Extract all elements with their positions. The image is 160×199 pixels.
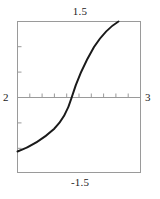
plot-canvas	[0, 0, 160, 199]
y-max-label: 1.5	[0, 6, 160, 17]
y-min-label: -1.5	[0, 177, 160, 188]
x-min-label: 2	[3, 92, 9, 103]
x-max-label: 3	[145, 92, 151, 103]
plot-figure: 1.5 -1.5 2 3	[0, 0, 160, 199]
